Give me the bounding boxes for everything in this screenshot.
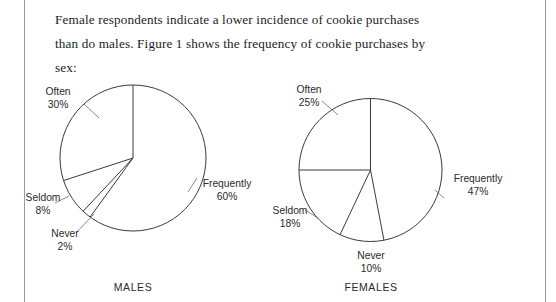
females-label-often-pct: 25%: [283, 97, 335, 110]
males-label-never: Never 2%: [43, 228, 87, 253]
females-label-seldom-name: Seldom: [273, 205, 308, 216]
males-label-often-name: Often: [45, 86, 70, 97]
females-label-never-pct: 10%: [348, 263, 394, 276]
females-label-frequently: Frequently 47%: [447, 173, 509, 198]
chart-caption-females: FEMALES: [321, 281, 421, 293]
males-label-frequently: Frequently 60%: [196, 178, 258, 203]
females-slice-divider-frequently-never: [371, 170, 384, 240]
pie-charts-svg: [0, 0, 556, 302]
males-label-often: Often 30%: [32, 86, 84, 111]
males-leader-often: [84, 104, 99, 118]
males-label-frequently-name: Frequently: [203, 178, 252, 189]
males-label-seldom-name: Seldom: [26, 192, 61, 203]
pie-chart-females: [299, 99, 444, 242]
females-label-frequently-pct: 47%: [447, 186, 509, 199]
males-label-seldom-pct: 8%: [18, 205, 68, 218]
figure-1-pie-charts: Often 30% Seldom 8% Never 2% Frequently …: [0, 0, 556, 302]
males-label-seldom: Seldom 8%: [18, 192, 68, 217]
females-label-seldom-pct: 18%: [265, 218, 315, 231]
males-slice-divider-frequently-never: [90, 158, 133, 217]
females-label-often-name: Often: [296, 84, 321, 95]
males-label-never-pct: 2%: [43, 241, 87, 254]
females-label-often: Often 25%: [283, 84, 335, 109]
chart-caption-males: MALES: [83, 281, 183, 293]
males-label-often-pct: 30%: [32, 99, 84, 112]
females-label-never: Never 10%: [348, 250, 394, 275]
females-label-never-name: Never: [357, 250, 384, 261]
females-label-frequently-name: Frequently: [454, 173, 503, 184]
females-label-seldom: Seldom 18%: [265, 205, 315, 230]
males-label-frequently-pct: 60%: [196, 191, 258, 204]
males-label-never-name: Never: [51, 228, 78, 239]
females-slice-divider-never-seldom: [340, 170, 370, 235]
document-page: Female respondents indicate a lower inci…: [0, 0, 556, 302]
